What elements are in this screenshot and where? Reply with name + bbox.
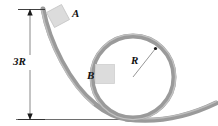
height-dimension-label: 3R — [12, 56, 27, 67]
physics-diagram-figure: A B R 3R — [0, 0, 218, 126]
block-a — [47, 5, 70, 28]
radius-endpoint-dot — [154, 47, 157, 50]
block-a-label: A — [72, 8, 79, 19]
dimension-arrow-top — [27, 9, 32, 16]
ramp-track-highlight — [42, 10, 94, 105]
radius-label: R — [131, 55, 138, 66]
block-b-label: B — [87, 70, 94, 81]
block-b — [96, 65, 115, 84]
diagram-canvas — [0, 0, 218, 126]
